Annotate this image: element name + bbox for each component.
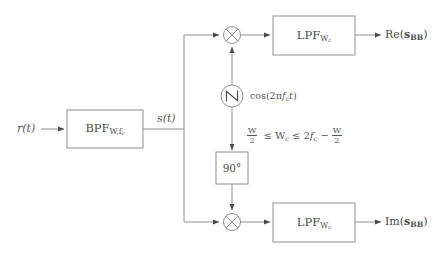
lower-output-subscript: BB: [410, 220, 423, 229]
constraint-den2: 2: [332, 135, 342, 145]
upper-lpf-subscript: W: [320, 34, 328, 43]
phase-shifter-label: 90°: [223, 162, 242, 174]
bpf-name: BPF: [85, 121, 109, 135]
sine-wave-icon: [227, 91, 238, 102]
upper-output-label: Re(sBB): [385, 29, 428, 42]
bpf-sub-subscript: c: [122, 131, 125, 137]
lower-lpf-block[interactable]: LPFWc: [273, 203, 355, 242]
oscillator-label: cos(2πfct): [250, 91, 297, 102]
filtered-signal-arg: (t): [163, 112, 176, 125]
constraint-rel2: ≤: [289, 130, 303, 141]
lower-lpf-subscript: W: [320, 221, 328, 230]
upper-output-subscript: BB: [410, 33, 423, 42]
constraint-wc: W: [275, 130, 285, 141]
lower-output-prefix: Im(: [385, 215, 404, 228]
constraint-frac-right: W 2: [332, 126, 342, 144]
constraint-num1: W: [247, 126, 257, 135]
bandwidth-constraint-label: W 2 ≤Wc≤2fc− W 2: [247, 126, 342, 144]
upper-lpf-block[interactable]: LPFWc: [273, 16, 355, 55]
upper-lpf-label: LPFWc: [297, 28, 331, 44]
input-signal-arg: (t): [22, 122, 35, 135]
constraint-rel1: ≤: [261, 130, 275, 141]
input-signal-label: r(t): [17, 123, 35, 134]
constraint-minus: −: [317, 130, 331, 141]
constraint-frac-left: W 2: [247, 126, 257, 144]
upper-lpf-sub-subscript: c: [328, 37, 331, 43]
lower-output-label: Im(sBB): [385, 216, 428, 229]
bpf-block[interactable]: BPFW,fc: [67, 110, 143, 148]
block-diagram-canvas: r(t) BPFW,fc s(t) cos(2πfct) W 2 ≤Wc≤2fc…: [0, 0, 445, 257]
lower-lpf-sub-subscript: c: [328, 224, 331, 230]
oscillator-label-suffix: ): [293, 90, 297, 101]
upper-output-suffix: ): [423, 28, 427, 41]
constraint-den1: 2: [247, 135, 257, 145]
lower-lpf-name: LPF: [297, 215, 320, 229]
bpf-label: BPFW,fc: [85, 121, 124, 137]
lower-lpf-label: LPFWc: [297, 215, 331, 231]
filtered-signal-label: s(t): [157, 113, 176, 124]
upper-output-prefix: Re(: [385, 28, 404, 41]
lower-output-suffix: ): [423, 215, 427, 228]
phase-shifter-block[interactable]: 90°: [216, 152, 248, 184]
oscillator-label-prefix: cos(2π: [250, 90, 282, 101]
upper-lpf-name: LPF: [297, 28, 320, 42]
constraint-num2: W: [332, 126, 342, 135]
bpf-subscript: W,f: [110, 127, 122, 136]
